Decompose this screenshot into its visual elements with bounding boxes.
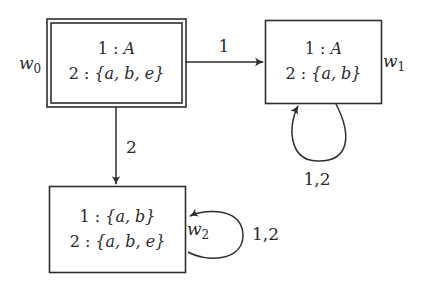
world-w0-outer-border (47, 19, 186, 107)
world-w0: 1 : A 2 : {a, b, e} w0 (19, 19, 186, 107)
world-w2-border (50, 187, 186, 273)
world-w2: 1 : {a, b} 2 : {a, b, e} w2 (50, 187, 210, 273)
edge-w0-w2: 2 (116, 107, 137, 184)
edge-label-w0-w1: 1 (219, 36, 230, 56)
world-w1-border (266, 21, 382, 104)
world-w0-inner-border (51, 23, 182, 103)
world-w0-line-1: 1 : A (98, 39, 135, 58)
kripke-diagram: 1 : A 2 : {a, b, e} w0 1 : A 2 : {a, b} … (0, 0, 428, 290)
world-w0-line-2: 2 : {a, b, e} (69, 64, 165, 83)
world-w2-name: w2 (187, 219, 209, 242)
world-w2-line-2: 2 : {a, b, e} (70, 232, 166, 251)
loop-arrow-w1 (292, 104, 346, 161)
world-w1-line-2: 2 : {a, b} (285, 64, 361, 83)
edge-label-w0-w2: 2 (126, 137, 137, 157)
edge-label-w2-loop: 1,2 (252, 224, 279, 244)
world-w0-name: w0 (19, 53, 41, 76)
world-w1-name: w1 (383, 51, 405, 74)
edge-w1-self-loop: 1,2 (292, 104, 346, 189)
world-w1-line-1: 1 : A (305, 39, 342, 58)
world-w1: 1 : A 2 : {a, b} w1 (266, 21, 406, 104)
edge-w0-w1: 1 (186, 36, 263, 62)
world-w2-line-1: 1 : {a, b} (79, 207, 155, 226)
edge-label-w1-loop: 1,2 (303, 169, 330, 189)
